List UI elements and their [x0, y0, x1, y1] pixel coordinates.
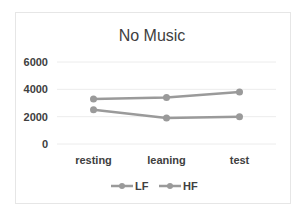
series-lf — [90, 89, 243, 103]
legend-marker-icon — [119, 183, 125, 189]
data-point — [163, 94, 170, 101]
data-point — [90, 95, 97, 102]
legend-marker-icon — [167, 183, 173, 189]
legend-item-lf: LF — [111, 180, 149, 192]
y-tick-label: 4000 — [24, 83, 48, 95]
legend-label: HF — [183, 180, 198, 192]
legend-label: LF — [135, 180, 149, 192]
line-chart: No Music 0200040006000 restingleaningtes… — [0, 0, 305, 216]
x-category-label: test — [230, 154, 250, 166]
data-point — [90, 106, 97, 113]
chart-title: No Music — [119, 27, 186, 44]
legend-item-hf: HF — [159, 180, 198, 192]
y-tick-label: 6000 — [24, 56, 48, 68]
data-point — [236, 113, 243, 120]
x-category-label: resting — [75, 154, 112, 166]
series-hf — [90, 106, 243, 121]
data-point — [163, 115, 170, 122]
data-point — [236, 89, 243, 96]
y-tick-label: 2000 — [24, 111, 48, 123]
y-tick-label: 0 — [42, 138, 48, 150]
x-category-label: leaning — [147, 154, 186, 166]
